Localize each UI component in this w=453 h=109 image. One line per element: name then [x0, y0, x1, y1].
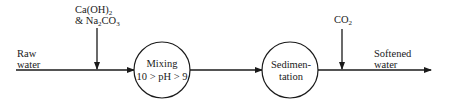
- chemicals-label: Ca(OH)2 & Na2CO3: [75, 4, 120, 26]
- co2-label: CO2: [334, 14, 352, 25]
- chemicals-label-line1: Ca(OH)2: [75, 4, 120, 15]
- co-text: CO: [102, 15, 117, 26]
- softened-water-label: Softened water: [374, 48, 411, 70]
- sedimentation-node-title-line2: tation: [271, 71, 311, 82]
- raw-water-label-line2: water: [17, 59, 40, 70]
- co3-subscript: 3: [116, 20, 120, 28]
- softened-water-label-line1: Softened: [374, 48, 411, 59]
- water-softening-process-diagram: Raw water Ca(OH)2 & Na2CO3 Mixing 10 > p…: [0, 0, 453, 109]
- co2-subscript: 2: [349, 19, 353, 27]
- sedimentation-node-label: Sedimen- tation: [271, 59, 311, 82]
- mixing-node-ph-range: 10 > pH > 9: [137, 71, 188, 82]
- raw-water-label-line1: Raw: [17, 48, 40, 59]
- softened-water-label-line2: water: [374, 59, 411, 70]
- caoh-text: Ca(OH): [75, 4, 109, 15]
- sedimentation-node-title-line1: Sedimen-: [271, 59, 311, 70]
- co2-text: CO: [334, 14, 349, 25]
- mixing-node-title: Mixing: [137, 58, 188, 69]
- chemicals-label-line2: & Na2CO3: [75, 15, 120, 26]
- raw-water-label: Raw water: [17, 48, 40, 70]
- mixing-node-label: Mixing 10 > pH > 9: [137, 58, 188, 82]
- na-text: & Na: [75, 15, 98, 26]
